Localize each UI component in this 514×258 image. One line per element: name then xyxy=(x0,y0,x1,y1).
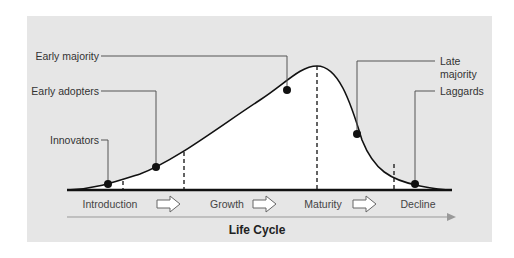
dot-late-majority xyxy=(353,130,361,138)
dot-innovators xyxy=(104,180,112,188)
dot-laggards xyxy=(411,180,419,188)
label-laggards: Laggards xyxy=(440,85,484,97)
dot-early-adopters xyxy=(152,163,160,171)
product-life-cycle-diagram: Innovators Early adopters Early majority… xyxy=(0,0,514,258)
label-early-majority: Early majority xyxy=(35,50,99,62)
label-late-majority-line1: Late xyxy=(440,55,461,67)
stage-growth: Growth xyxy=(210,198,244,210)
label-innovators: Innovators xyxy=(50,134,99,146)
label-early-adopters: Early adopters xyxy=(31,85,99,97)
label-late-majority-line2: majority xyxy=(440,68,478,80)
stage-decline: Decline xyxy=(400,198,435,210)
dot-early-majority xyxy=(283,86,291,94)
diagram-title: Life Cycle xyxy=(229,223,286,237)
stage-maturity: Maturity xyxy=(304,198,342,210)
stage-introduction: Introduction xyxy=(83,198,138,210)
